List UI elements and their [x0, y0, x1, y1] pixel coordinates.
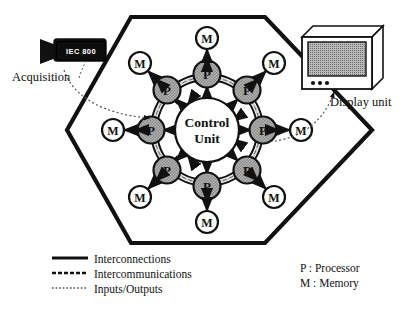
processor-node: P [194, 61, 221, 88]
acquisition-device-label: IEC 800 [56, 41, 106, 61]
memory-node: M [263, 52, 285, 74]
acquisition-caption: Acquisition [12, 70, 70, 85]
memory-label: M [295, 124, 306, 138]
processor-label: P [163, 163, 171, 178]
processor-label: P [203, 179, 211, 194]
processor-node: P [194, 173, 221, 200]
processor-label: P [259, 123, 267, 138]
legend-key-processor: P : Processor [300, 262, 360, 274]
monitor-button [325, 81, 329, 85]
processor-label: P [163, 83, 171, 98]
control-unit-line1: Control [185, 115, 230, 130]
memory-label: M [201, 32, 212, 46]
monitor-button [318, 81, 322, 85]
memory-label: M [134, 57, 145, 71]
processor-label: P [243, 83, 251, 98]
memory-label: M [134, 191, 145, 205]
processor-node: P [154, 157, 181, 184]
legend-line-samples [52, 258, 88, 288]
legend-label-interconnections: Interconnections [94, 253, 171, 265]
memory-label: M [107, 124, 118, 138]
memory-label: M [201, 216, 212, 230]
display-unit-caption: Display unit [330, 95, 391, 110]
memory-node: M [263, 186, 285, 208]
processor-node: P [234, 77, 261, 104]
diagram-canvas: P P P P P P P [0, 0, 419, 314]
legend-label-inputs-outputs: Inputs/Outputs [94, 283, 162, 295]
memory-node: M [129, 186, 151, 208]
processor-node: P [250, 117, 277, 144]
processor-label: P [203, 67, 211, 82]
legend-key-memory: M : Memory [300, 277, 359, 289]
processor-node: P [138, 117, 165, 144]
memory-node: M [102, 119, 124, 141]
processor-label: P [147, 123, 155, 138]
memory-node: M [196, 27, 218, 49]
display-unit-icon [302, 26, 383, 89]
memory-node: M [290, 119, 312, 141]
memory-node: M [129, 52, 151, 74]
monitor-button [311, 81, 315, 85]
control-unit-node: Control Unit [175, 98, 239, 162]
processor-node: P [234, 157, 261, 184]
processor-label: P [243, 163, 251, 178]
memory-label: M [268, 191, 279, 205]
processor-node: P [154, 77, 181, 104]
legend-label-intercommunications: Intercommunications [94, 268, 192, 280]
memory-label: M [268, 57, 279, 71]
control-unit-line2: Unit [194, 131, 220, 146]
memory-node: M [196, 211, 218, 233]
